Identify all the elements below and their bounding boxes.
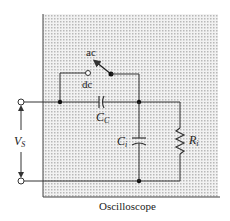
ac-label: ac bbox=[86, 46, 96, 58]
dc-terminal bbox=[86, 71, 91, 76]
junction-left bbox=[58, 100, 62, 104]
source-voltage-label: VS bbox=[14, 134, 25, 149]
oscilloscope-region bbox=[43, 14, 218, 197]
circuit-diagram: ac dc CC Ci Ri VS Oscilloscope bbox=[0, 0, 230, 221]
input-terminal-top[interactable] bbox=[18, 99, 24, 105]
input-terminal-bottom[interactable] bbox=[18, 178, 24, 184]
dc-label: dc bbox=[82, 78, 93, 90]
oscilloscope-caption: Oscilloscope bbox=[99, 200, 156, 212]
